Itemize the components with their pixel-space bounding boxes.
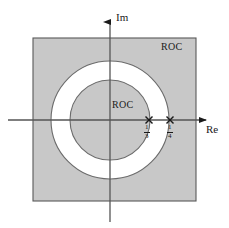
imaginary-axis-label: Im bbox=[116, 12, 128, 23]
roc-inner-label: ROC bbox=[112, 100, 133, 110]
pole-label-one-fourth: 1 4 bbox=[167, 124, 173, 141]
pole-label-one-third: 1 3 bbox=[144, 124, 150, 141]
roc-outer-label: ROC bbox=[161, 42, 182, 52]
pole-1-numerator: 1 bbox=[144, 124, 150, 131]
z-plane-plot bbox=[0, 0, 229, 228]
pole-2-denominator: 4 bbox=[167, 133, 173, 140]
roc-diagram-figure: Im Re ROC ROC 1 3 1 4 bbox=[0, 0, 229, 228]
pole-1-denominator: 3 bbox=[144, 133, 150, 140]
pole-2-numerator: 1 bbox=[167, 124, 173, 131]
real-axis-label: Re bbox=[206, 124, 218, 135]
